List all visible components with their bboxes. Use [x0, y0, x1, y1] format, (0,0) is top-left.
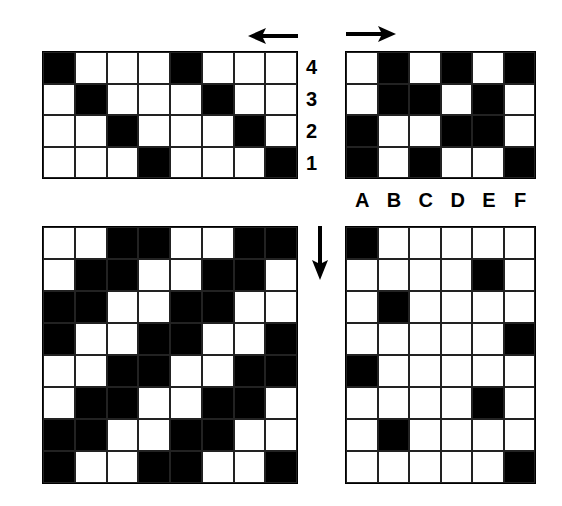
- treadling-cell: [441, 355, 473, 387]
- treadling-cell: [346, 291, 378, 323]
- arrow-right-icon: [344, 25, 396, 43]
- treadling-cell: [504, 451, 536, 483]
- drawdown-cell: [234, 227, 266, 259]
- drawdown-cell: [75, 227, 107, 259]
- drawdown-cell: [202, 355, 234, 387]
- drawdown-cell: [107, 387, 139, 419]
- tieup-cell: [346, 52, 378, 84]
- drawdown-cell: [170, 259, 202, 291]
- treadling-cell: [346, 355, 378, 387]
- tieup-cell: [441, 115, 473, 147]
- threading-cell: [170, 147, 202, 179]
- treadling-cell: [441, 419, 473, 451]
- drawdown-cell: [43, 451, 75, 483]
- treadling-cell: [472, 451, 504, 483]
- threading-cell: [107, 115, 139, 147]
- tieup-cell: [378, 115, 410, 147]
- threading-cell: [138, 115, 170, 147]
- treadle-label: B: [387, 190, 401, 210]
- drawdown-cell: [234, 419, 266, 451]
- drawdown-cell: [75, 259, 107, 291]
- threading-cell: [170, 115, 202, 147]
- drawdown-cell: [265, 291, 297, 323]
- treadling-cell: [346, 259, 378, 291]
- treadling-cell: [441, 451, 473, 483]
- treadling-cell: [504, 227, 536, 259]
- tieup-cell: [346, 84, 378, 116]
- threading-cell: [265, 52, 297, 84]
- treadle-label: E: [482, 190, 495, 210]
- drawdown-cell: [265, 227, 297, 259]
- tieup-cell: [472, 115, 504, 147]
- treadling-cell: [472, 291, 504, 323]
- treadle-label: F: [514, 190, 526, 210]
- treadling-cell: [472, 419, 504, 451]
- tieup-cell: [504, 115, 536, 147]
- tieup-cell: [409, 52, 441, 84]
- drawdown-cell: [75, 451, 107, 483]
- drawdown-cell: [43, 323, 75, 355]
- threading-cell: [107, 52, 139, 84]
- drawdown-cell: [265, 323, 297, 355]
- drawdown-cell: [138, 259, 170, 291]
- shaft-label: 2: [306, 121, 317, 141]
- drawdown-cell: [170, 227, 202, 259]
- treadling-cell: [504, 291, 536, 323]
- treadling-cell: [409, 323, 441, 355]
- drawdown-cell: [107, 259, 139, 291]
- threading-cell: [43, 52, 75, 84]
- drawdown-cell: [138, 323, 170, 355]
- threading-cell: [202, 84, 234, 116]
- drawdown-cell: [43, 291, 75, 323]
- treadling-cell: [409, 227, 441, 259]
- treadling-cell: [346, 419, 378, 451]
- treadling-cell: [504, 259, 536, 291]
- tieup-cell: [441, 147, 473, 179]
- drawdown-cell: [170, 355, 202, 387]
- tieup-cell: [409, 147, 441, 179]
- drawdown-cell: [202, 451, 234, 483]
- drawdown-cell: [265, 419, 297, 451]
- treadling-cell: [441, 259, 473, 291]
- drawdown-cell: [234, 259, 266, 291]
- drawdown-cell: [202, 387, 234, 419]
- drawdown-cell: [170, 323, 202, 355]
- treadling-cell: [378, 451, 410, 483]
- arrow-left-icon: [248, 27, 300, 45]
- drawdown-cell: [43, 355, 75, 387]
- treadling-cell: [409, 451, 441, 483]
- threading-cell: [138, 84, 170, 116]
- treadling-cell: [346, 227, 378, 259]
- threading-cell: [107, 84, 139, 116]
- drawdown-cell: [43, 419, 75, 451]
- tieup-cell: [346, 115, 378, 147]
- tieup-cell: [441, 52, 473, 84]
- threading-grid: [42, 51, 298, 179]
- tieup-cell: [378, 52, 410, 84]
- tieup-cell: [378, 147, 410, 179]
- arrow-down-icon: [311, 224, 329, 280]
- treadling-cell: [472, 323, 504, 355]
- treadling-cell: [409, 355, 441, 387]
- threading-cell: [43, 147, 75, 179]
- drawdown-cell: [43, 259, 75, 291]
- drawdown-cell: [234, 291, 266, 323]
- drawdown-cell: [107, 355, 139, 387]
- treadling-cell: [409, 291, 441, 323]
- tieup-cell: [409, 84, 441, 116]
- threading-cell: [170, 84, 202, 116]
- threading-cell: [202, 52, 234, 84]
- drawdown-cell: [265, 387, 297, 419]
- threading-cell: [234, 147, 266, 179]
- drawdown-cell: [75, 323, 107, 355]
- threading-cell: [138, 52, 170, 84]
- drawdown-cell: [170, 291, 202, 323]
- threading-cell: [107, 147, 139, 179]
- treadling-cell: [409, 419, 441, 451]
- treadling-cell: [378, 355, 410, 387]
- treadling-cell: [409, 259, 441, 291]
- drawdown-cell: [170, 451, 202, 483]
- drawdown-cell: [107, 419, 139, 451]
- drawdown-cell: [170, 387, 202, 419]
- threading-cell: [234, 84, 266, 116]
